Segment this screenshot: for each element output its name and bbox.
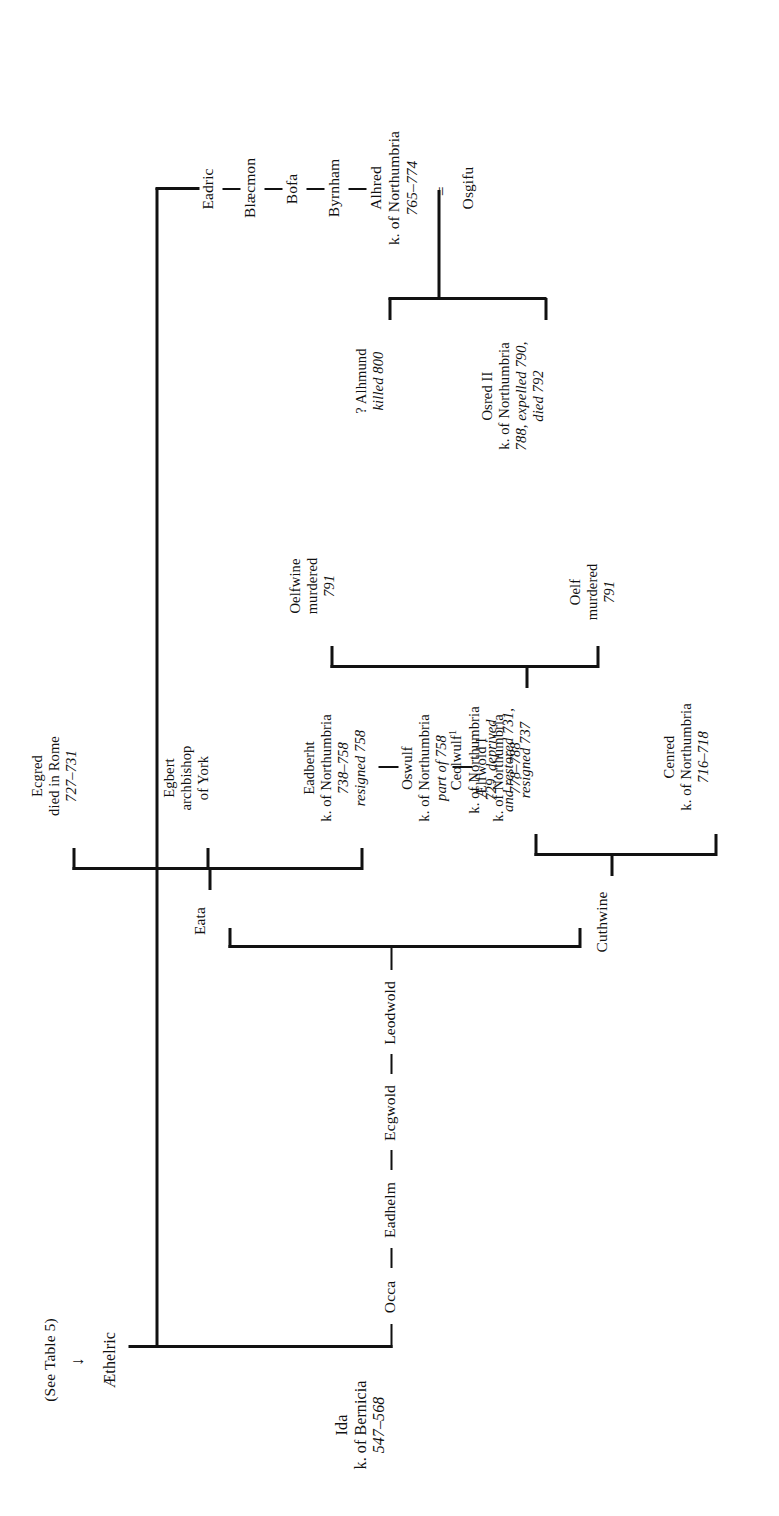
connector-eadric-blaecmon-v xyxy=(222,188,240,190)
connector-eadberht-oswulf xyxy=(378,766,398,768)
node-eadric-label: Eadric xyxy=(198,162,216,216)
node-osred-ii-line-0: Osred II xyxy=(478,318,495,474)
node-cuthwine-label: Cuthwine xyxy=(592,876,610,968)
node-ida-line-1: k. of Bernicia xyxy=(351,1350,370,1500)
node-oelf-line-1: murdered xyxy=(583,540,600,644)
connector-eadhelm-ecgwold xyxy=(390,1150,392,1170)
node-osgifu: Osgifu xyxy=(458,148,476,228)
node-ida-line-2: 547–568 xyxy=(369,1350,388,1500)
trunk-ida-to-aethelric xyxy=(155,188,158,1348)
bracket-eata-child-eadberht xyxy=(360,848,363,870)
node-oswulf-line-0: Oswulf xyxy=(398,690,415,846)
node-aelfwold-i-line-0: Ælfwold I xyxy=(472,690,489,846)
node-ecgwold-label: Ecgwold xyxy=(380,1076,398,1150)
node-ecgwold: Ecgwold xyxy=(380,1076,398,1150)
node-osred-ii: Osred II k. of Northumbria 788, expelled… xyxy=(478,318,546,474)
bracket-alhred-child-alhmund xyxy=(388,298,391,320)
connector-marriage-descent xyxy=(437,190,440,300)
node-eadhelm: Eadhelm xyxy=(380,1172,398,1248)
node-cenred: Cenred k. of Northumbria 716–718 xyxy=(660,682,711,832)
node-osred-ii-line-2: 788, expelled 790, xyxy=(512,318,529,474)
node-egbert-line-2: of York xyxy=(194,718,211,838)
node-blaecmon-label: Blæcmon xyxy=(240,152,258,224)
connector-cuthwine-stem xyxy=(610,854,613,876)
node-osred-ii-line-1: k. of Northumbria xyxy=(495,318,512,474)
node-aethelric: Æthelric xyxy=(100,1300,119,1420)
node-oelf-line-2: 791 xyxy=(600,540,617,644)
node-cenred-line-0: Cenred xyxy=(660,682,677,832)
node-egbert-line-1: archbishop xyxy=(177,718,194,838)
bracket-leodwold-child-cuthwine xyxy=(578,928,581,948)
connector-ecgwold-leodwold xyxy=(390,1054,392,1074)
node-blaecmon: Blæcmon xyxy=(240,152,258,224)
node-aelfwold-i: Ælfwold I k. of Northumbria 778–788 xyxy=(472,690,523,846)
node-aethelric-reference-label: (See Table 5) xyxy=(40,1300,58,1420)
bracket-cuthwine-child-cenred xyxy=(714,834,717,856)
node-oelfwine-line-2: 791 xyxy=(320,528,337,644)
node-eadhelm-label: Eadhelm xyxy=(380,1172,398,1248)
node-cuthwine: Cuthwine xyxy=(592,876,610,968)
node-ida-line-0: Ida xyxy=(332,1350,351,1500)
connector-oswulf-aelfwold xyxy=(452,766,472,768)
node-oelfwine-line-1: murdered xyxy=(303,528,320,644)
node-aethelric-reference: (See Table 5) xyxy=(40,1300,58,1420)
connector-eata-stem xyxy=(208,868,211,890)
node-osred-ii-line-3: died 792 xyxy=(529,318,546,474)
node-byrnham-label: Byrnham xyxy=(324,148,342,228)
node-oswulf-line-1: k. of Northumbria xyxy=(415,690,432,846)
node-alhred: Alhred k. of Northumbria 765–774 xyxy=(366,110,420,266)
node-bofa-label: Bofa xyxy=(282,162,300,216)
node-alhmund-line-1: killed 800 xyxy=(369,318,386,444)
node-ecgred-line-2: 727–731 xyxy=(62,708,79,844)
node-eadberht-line-2: 738–758 xyxy=(334,690,351,846)
node-eata: Eata xyxy=(190,892,208,950)
bracket-alhred-children xyxy=(388,297,546,300)
node-alhmund: ? Alhmund killed 800 xyxy=(352,318,386,444)
node-eadberht: Eadberht k. of Northumbria 738–758 resig… xyxy=(300,690,368,846)
bracket-alhred-child-osred xyxy=(544,298,547,320)
bracket-leodwold-child-eata xyxy=(228,928,231,948)
node-aethelric-label: Æthelric xyxy=(100,1300,119,1420)
node-oswulf-line-2: part of 758 xyxy=(432,690,449,846)
node-bofa: Bofa xyxy=(282,162,300,216)
node-alhred-line-1: k. of Northumbria xyxy=(384,110,402,266)
node-oelf: Oelf murdered 791 xyxy=(566,540,617,644)
node-alhmund-line-0: ? Alhmund xyxy=(352,318,369,444)
node-aelfwold-i-line-2: 778–788 xyxy=(506,690,523,846)
node-occa-label: Occa xyxy=(380,1270,398,1324)
genealogy-chart: Ida k. of Bernicia 547–568 Occa Eadhelm … xyxy=(0,0,779,1516)
node-eadberht-line-0: Eadberht xyxy=(300,690,317,846)
bracket-eata-child-ecgred xyxy=(72,848,75,870)
node-leodwold-label: Leodwold xyxy=(380,972,398,1054)
node-byrnham: Byrnham xyxy=(324,148,342,228)
bracket-cuthwine-children xyxy=(534,853,716,856)
node-oelf-line-0: Oelf xyxy=(566,540,583,644)
node-ceolwulf-name: Ceolwulf xyxy=(448,735,464,790)
connector-blaecmon-bofa xyxy=(264,188,282,190)
node-leodwold: Leodwold xyxy=(380,972,398,1054)
connector-byrnham-alhred xyxy=(348,188,366,190)
marriage-equals-sign: = xyxy=(432,186,449,196)
node-eadric: Eadric xyxy=(198,162,216,216)
bracket-leodwold-children xyxy=(228,945,580,948)
connector-occa-eadhelm xyxy=(390,1248,392,1268)
bracket-eata-children xyxy=(72,867,362,870)
node-oelfwine-line-0: Oelfwine xyxy=(286,528,303,644)
node-oelfwine: Oelfwine murdered 791 xyxy=(286,528,337,644)
node-alhred-line-0: Alhred xyxy=(366,110,384,266)
bracket-aelfwold-children xyxy=(330,665,598,668)
node-ecgred-line-1: died in Rome xyxy=(45,708,62,844)
connector-aelfwold-stem xyxy=(525,666,528,688)
node-oswulf: Oswulf k. of Northumbria part of 758 xyxy=(398,690,449,846)
node-eadberht-line-1: k. of Northumbria xyxy=(317,690,334,846)
connector-bofa-byrnham xyxy=(306,188,324,190)
node-eata-label: Eata xyxy=(190,892,208,950)
bracket-cuthwine-child-ceolwulf xyxy=(534,834,537,856)
node-eadberht-line-3: resigned 758 xyxy=(351,690,368,846)
bracket-aelfwold-child-oelf xyxy=(596,646,599,668)
trunk-ida-to-eadric xyxy=(155,187,199,190)
connector-aethelric-stub xyxy=(128,1345,157,1348)
node-ecgred-line-0: Ecgred xyxy=(28,708,45,844)
node-egbert: Egbert archbishop of York xyxy=(160,718,211,838)
node-ida: Ida k. of Bernicia 547–568 xyxy=(332,1350,388,1500)
